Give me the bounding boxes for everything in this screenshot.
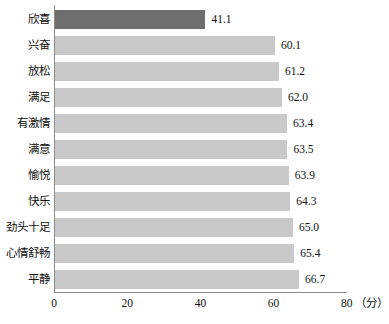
bar-value-label: 60.1 [281, 36, 301, 55]
bar-row[interactable]: 兴奋60.1 [54, 36, 382, 62]
bar-row[interactable]: 有激情63.4 [54, 114, 382, 140]
x-axis-tick-label: 80 [341, 296, 353, 310]
bar[interactable] [55, 10, 205, 29]
bar-value-label: 63.9 [295, 166, 315, 185]
bar-chart: 欣喜41.1兴奋60.1放松61.2满足62.0有激情63.4满意63.5愉悦6… [0, 0, 389, 324]
bar-row[interactable]: 满足62.0 [54, 88, 382, 114]
category-label: 放松 [28, 62, 50, 81]
x-axis-unit-label: （分） [355, 296, 388, 310]
bar[interactable] [55, 88, 282, 107]
category-label: 有激情 [17, 114, 50, 133]
bar-value-label: 61.2 [285, 62, 305, 81]
bar-value-label: 41.1 [211, 10, 231, 29]
bar[interactable] [55, 114, 287, 133]
x-axis-tick-label: 20 [121, 296, 133, 310]
bar[interactable] [55, 166, 289, 185]
bar-value-label: 66.7 [305, 270, 325, 289]
x-axis-tick-label: 0 [51, 296, 57, 310]
category-label: 满意 [28, 140, 50, 159]
x-axis-tick-label: 40 [195, 296, 207, 310]
bar-row[interactable]: 劲头十足65.0 [54, 218, 382, 244]
bar[interactable] [55, 192, 290, 211]
bar-value-label: 65.4 [300, 244, 320, 263]
bar-value-label: 63.4 [293, 114, 313, 133]
category-label: 兴奋 [28, 36, 50, 55]
bar-row[interactable]: 心情舒畅65.4 [54, 244, 382, 270]
bar-value-label: 64.3 [296, 192, 316, 211]
category-label: 劲头十足 [6, 218, 50, 237]
category-label: 心情舒畅 [6, 244, 50, 263]
bar[interactable] [55, 244, 294, 263]
plot-area: 欣喜41.1兴奋60.1放松61.2满足62.0有激情63.4满意63.5愉悦6… [54, 6, 382, 292]
category-label: 愉悦 [28, 166, 50, 185]
bar-row[interactable]: 放松61.2 [54, 62, 382, 88]
bar[interactable] [55, 36, 275, 55]
bar-row[interactable]: 愉悦63.9 [54, 166, 382, 192]
bar-row[interactable]: 满意63.5 [54, 140, 382, 166]
bar-row[interactable]: 欣喜41.1 [54, 10, 382, 36]
category-label: 欣喜 [28, 10, 50, 29]
bar[interactable] [55, 270, 299, 289]
bar[interactable] [55, 62, 279, 81]
bar-value-label: 65.0 [299, 218, 319, 237]
bar[interactable] [55, 140, 287, 159]
bar-value-label: 62.0 [288, 88, 308, 107]
bar[interactable] [55, 218, 293, 237]
x-axis-tick-label: 60 [268, 296, 280, 310]
bar-row[interactable]: 快乐64.3 [54, 192, 382, 218]
category-label: 平静 [28, 270, 50, 289]
bar-value-label: 63.5 [293, 140, 313, 159]
bar-row[interactable]: 平静66.7 [54, 270, 382, 296]
category-label: 快乐 [28, 192, 50, 211]
category-label: 满足 [28, 88, 50, 107]
